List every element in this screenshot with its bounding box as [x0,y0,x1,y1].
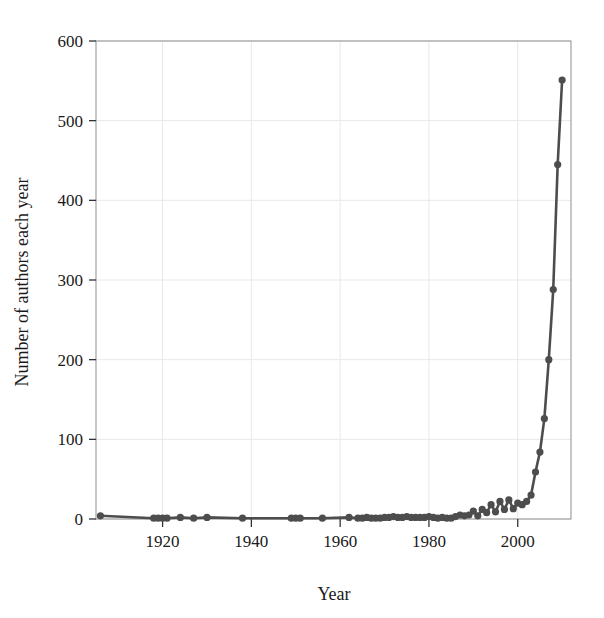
y-tick-label: 600 [58,32,84,51]
y-axis-tick-labels: 0100200300400500600 [58,32,84,529]
data-series-markers [97,76,566,521]
axis-ticks [89,41,518,527]
x-tick-label: 1940 [234,532,268,551]
y-axis-title: Number of authors each year [12,178,32,387]
x-axis-title: Year [317,584,350,604]
x-tick-label: 1960 [323,532,357,551]
x-tick-label: 1920 [146,532,180,551]
chart-figure: 0100200300400500600 19201940196019802000… [0,0,604,618]
grid-lines [96,41,571,519]
line-chart-canvas: 0100200300400500600 19201940196019802000… [0,0,604,618]
y-tick-label: 200 [58,351,84,370]
data-series-line [100,80,562,518]
x-tick-label: 1980 [412,532,446,551]
x-tick-label: 2000 [501,532,535,551]
x-axis-tick-labels: 19201940196019802000 [146,532,535,551]
y-tick-label: 0 [75,510,84,529]
y-tick-label: 100 [58,430,84,449]
y-tick-label: 500 [58,112,84,131]
y-tick-label: 400 [58,191,84,210]
y-tick-label: 300 [58,271,84,290]
